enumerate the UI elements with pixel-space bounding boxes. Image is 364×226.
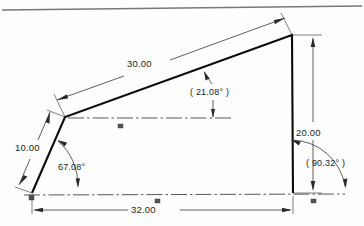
arrow-30-left: [57, 94, 68, 100]
dimension-label-10: 10.00: [15, 142, 40, 153]
drawing-svg: 30.00 10.00 20.00 32.00 ( 21.08° ): [0, 0, 364, 226]
dimension-label-32: 32.00: [131, 204, 156, 215]
dim-line-30-seg2: [170, 18, 285, 60]
centerline-horizontal-base: [24, 194, 345, 195]
dimension-label-30: 30.00: [127, 58, 152, 69]
arrow-32-right: [282, 208, 292, 212]
datum-marker-base: [155, 199, 160, 203]
arrow-20-top: [311, 37, 316, 47]
ext-line-10-bottom: [15, 187, 32, 193]
arrow-6708-lower: [76, 178, 80, 188]
datum-marker-right: [311, 199, 316, 203]
angle-label-6708: 67.08°: [58, 162, 86, 172]
technical-drawing-canvas: 30.00 10.00 20.00 32.00 ( 21.08° ): [0, 0, 364, 226]
scan-artifact-line: [2, 6, 362, 10]
angle-label-2108: ( 21.08° ): [190, 87, 229, 97]
arrow-2108-lower: [211, 109, 215, 118]
dim-line-10-seg2: [19, 159, 30, 185]
ext-line-30-right: [281, 13, 292, 35]
arrow-30-right: [274, 18, 285, 24]
arrow-10-bottom: [19, 175, 27, 185]
angle-label-9032: ( 90.32° ): [306, 158, 345, 168]
arrow-32-left: [33, 208, 43, 212]
datum-marker-upper: [118, 124, 123, 128]
dimension-label-20: 20.00: [296, 127, 321, 138]
arrow-10-top: [46, 112, 51, 124]
arrow-20-bottom: [311, 181, 316, 191]
arrow-9032-lower: [343, 179, 347, 189]
datum-marker-origin: [29, 195, 34, 200]
